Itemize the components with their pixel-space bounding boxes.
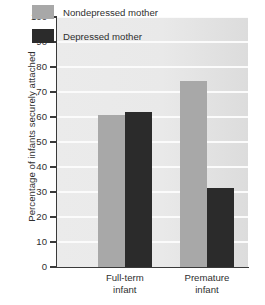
y-tick-label: 20 [7, 212, 47, 222]
bar [207, 188, 234, 267]
x-axis-category-line: infant [159, 284, 255, 296]
bar [98, 115, 125, 268]
plot-area [57, 17, 248, 267]
gridline [57, 166, 248, 167]
y-tick-label: 50 [7, 137, 47, 147]
legend-swatch [32, 29, 54, 43]
y-tick-label: 70 [7, 87, 47, 97]
gridline [57, 66, 248, 67]
gridline [57, 116, 248, 117]
x-axis-line [56, 267, 249, 268]
y-tick-label: 60 [7, 112, 47, 122]
legend-label: Nondepressed mother [63, 7, 158, 18]
x-axis-category-line: Premature [159, 272, 255, 284]
bar [180, 81, 207, 267]
legend-item: Depressed mother [32, 29, 142, 43]
legend-item: Nondepressed mother [32, 5, 158, 19]
y-tick-label: 80 [7, 62, 47, 72]
x-axis-category-label: Prematureinfant [159, 272, 255, 296]
bar [125, 112, 152, 267]
y-tick-label: 10 [7, 237, 47, 247]
y-tick-label: 0 [7, 262, 47, 272]
y-tick-label: 40 [7, 162, 47, 172]
legend-label: Depressed mother [63, 31, 142, 42]
bar-chart: Percentage of infants securely attached … [0, 0, 265, 305]
legend-swatch [32, 5, 54, 19]
gridline [57, 91, 248, 92]
gridline [57, 141, 248, 142]
y-tick-label: 30 [7, 187, 47, 197]
